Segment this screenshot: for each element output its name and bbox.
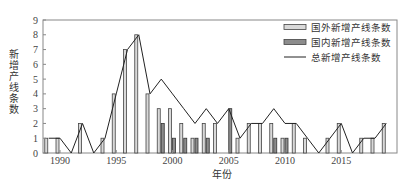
legend-label: 国外新增产线条数 [311,22,391,33]
x-tick-label: 1990 [50,155,70,166]
y-tick-label: 6 [33,59,38,70]
bar-domestic [274,138,277,153]
svg-text:增: 增 [9,59,19,71]
x-tick-label: 1995 [106,155,126,166]
bar-foreign [45,138,48,153]
bar-foreign [180,123,183,153]
y-tick-label: 0 [33,148,38,159]
bar-foreign [202,123,205,153]
legend-label: 总新增产线条数 [311,52,381,63]
svg-text:线: 线 [9,81,19,93]
legend-swatch-icon [284,40,306,45]
bar-foreign [146,94,149,153]
x-tick-label: 2005 [219,155,239,166]
bar-domestic [206,138,209,153]
svg-text:条: 条 [9,92,19,104]
bar-foreign [214,123,217,153]
y-axis-label: 新增产线条数 [9,48,19,115]
legend-item: 国内新增产线条数 [284,37,391,48]
legend-label: 国内新增产线条数 [311,37,391,48]
bar-foreign [169,109,172,153]
bar-foreign [135,35,138,153]
x-tick-label: 2000 [163,155,183,166]
bar-foreign [281,138,284,153]
bar-foreign [157,109,160,153]
bar-foreign [292,123,295,153]
bar-foreign [191,138,194,153]
y-tick-label: 4 [33,88,38,99]
bar-foreign [236,138,239,153]
legend-swatch-icon [284,25,306,30]
y-tick-label: 1 [33,133,38,144]
bar-foreign [304,138,307,153]
x-axis-label: 年份 [212,168,232,180]
legend: 国外新增产线条数国内新增产线条数总新增产线条数 [284,22,391,63]
svg-text:新: 新 [9,48,19,60]
bar-foreign [371,138,374,153]
y-tick-label: 9 [33,15,38,26]
y-tick-label: 7 [33,44,38,55]
y-tick-label: 5 [33,74,38,85]
svg-text:产: 产 [9,70,19,82]
legend-item: 国外新增产线条数 [284,22,391,33]
bar-foreign [56,138,59,153]
bar-foreign [270,123,273,153]
bar-domestic [161,123,164,153]
y-tick-label: 8 [33,29,38,40]
bar-domestic [184,138,187,153]
x-tick-label: 2015 [331,155,351,166]
svg-text:数: 数 [9,103,19,115]
y-tick-label: 3 [33,103,38,114]
chart: 0123456789 199019952000200520102015 年份 新… [0,0,413,184]
legend-item: 总新增产线条数 [284,52,381,63]
x-tick-label: 2010 [275,155,295,166]
bar-domestic [195,138,198,153]
y-axis-ticks: 0123456789 [33,15,46,159]
y-tick-label: 2 [33,118,38,129]
bar-foreign [259,123,262,153]
